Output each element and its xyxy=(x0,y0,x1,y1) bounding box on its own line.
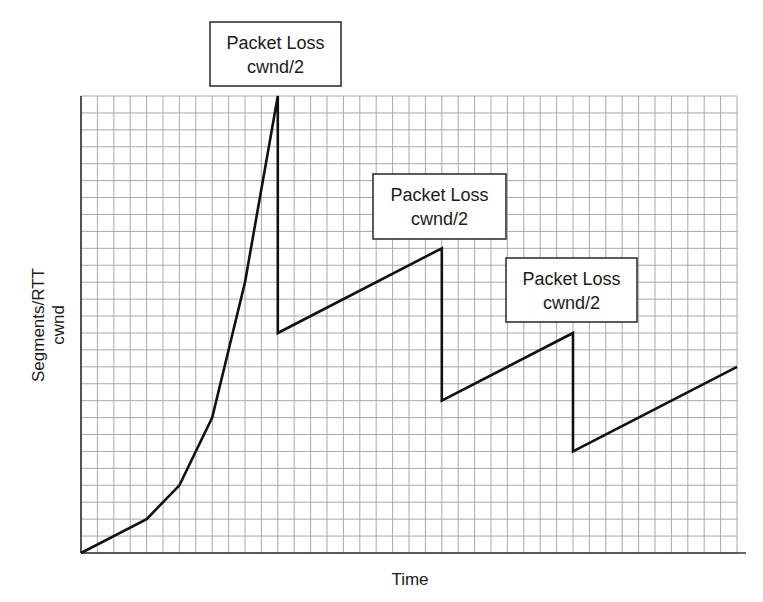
annotation-packet-loss-3: Packet Loss cwnd/2 xyxy=(506,258,637,322)
cwnd-chart: Packet Loss cwnd/2 Packet Loss cwnd/2 Pa… xyxy=(0,0,763,602)
annotation-title: Packet Loss xyxy=(390,185,488,205)
annotation-packet-loss-1: Packet Loss cwnd/2 xyxy=(210,22,341,86)
annotation-title: Packet Loss xyxy=(522,269,620,289)
y-axis-label: Segments/RTT cwnd xyxy=(29,268,68,382)
annotation-packet-loss-2: Packet Loss cwnd/2 xyxy=(373,174,506,239)
y-axis-label-line1: Segments/RTT xyxy=(29,268,48,382)
annotation-box xyxy=(373,174,506,239)
annotation-subtitle: cwnd/2 xyxy=(543,293,600,313)
annotation-title: Packet Loss xyxy=(226,33,324,53)
x-axis-label: Time xyxy=(391,570,428,589)
annotation-subtitle: cwnd/2 xyxy=(411,209,468,229)
y-axis-label-line2: cwnd xyxy=(49,305,68,345)
annotation-subtitle: cwnd/2 xyxy=(247,57,304,77)
